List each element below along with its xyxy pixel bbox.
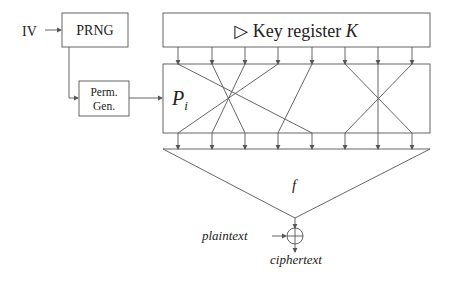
key-register-label: ▷ Key register K <box>234 21 358 41</box>
key-to-p-wires <box>178 47 412 64</box>
permutation-label: Pi <box>171 87 188 113</box>
permutation-lines <box>178 64 412 133</box>
perm-gen-label-1: Perm. <box>90 86 117 98</box>
plaintext-label: plaintext <box>201 228 248 243</box>
diagram: IV PRNG Perm. Gen. ▷ Key register K Pi f… <box>0 0 452 282</box>
f-function-triangle <box>163 149 430 218</box>
prng-to-permgen-arrow <box>69 47 78 98</box>
iv-label: IV <box>22 24 37 39</box>
perm-gen-label-2: Gen. <box>93 100 115 112</box>
prng-label: PRNG <box>76 23 113 38</box>
p-to-f-wires <box>178 133 412 149</box>
ciphertext-label: ciphertext <box>270 252 322 267</box>
function-label: f <box>292 177 298 193</box>
permutation-box <box>163 64 430 133</box>
xor-icon <box>287 228 303 244</box>
